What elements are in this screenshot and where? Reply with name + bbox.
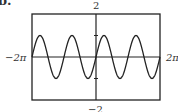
plot-area bbox=[0, 0, 178, 112]
